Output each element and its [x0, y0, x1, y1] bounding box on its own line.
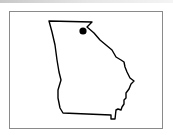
georgia-map [0, 0, 173, 139]
georgia-state-outline [49, 21, 134, 119]
location-dot-icon[interactable] [79, 27, 86, 34]
